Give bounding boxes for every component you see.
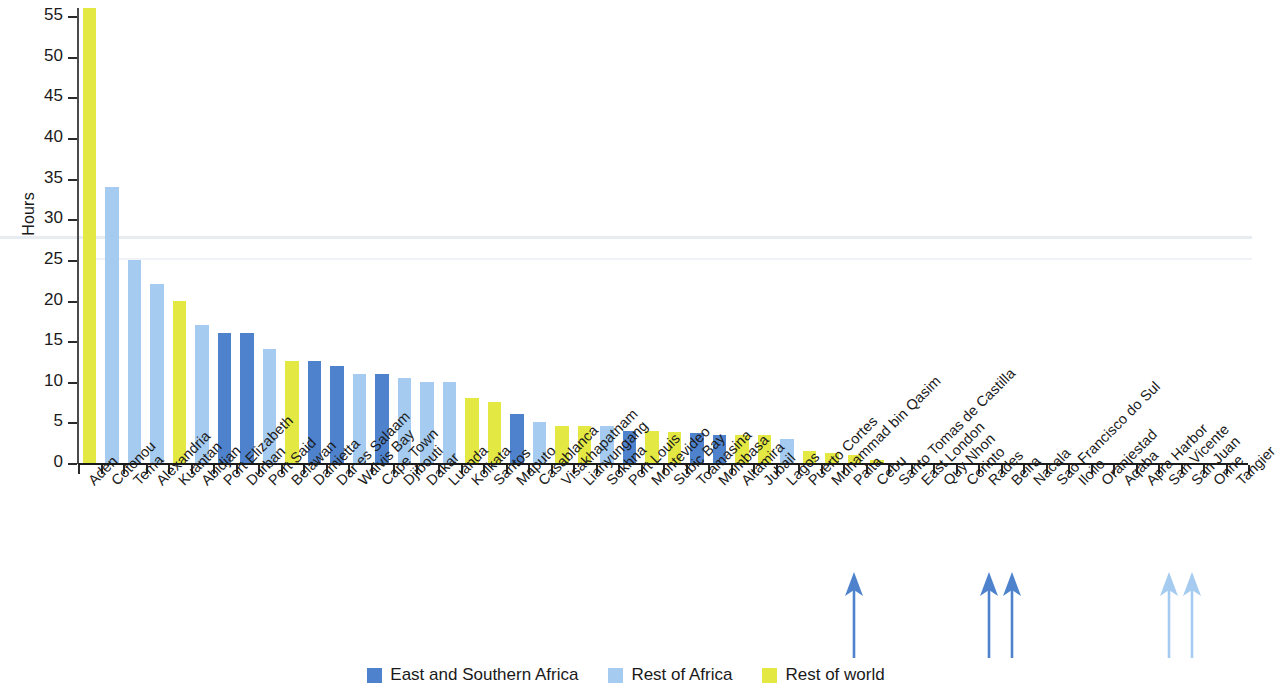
legend-item-east[interactable]: East and Southern Africa bbox=[367, 665, 578, 685]
y-tick-label: 50 bbox=[44, 46, 63, 66]
y-tick-label: 55 bbox=[44, 5, 63, 25]
legend-swatch-icon bbox=[762, 668, 777, 683]
y-tick-mark bbox=[68, 382, 77, 384]
y-tick-label: 45 bbox=[44, 86, 63, 106]
y-tick-55: 55 bbox=[0, 16, 77, 17]
y-tick-label: 20 bbox=[44, 290, 63, 310]
y-tick-mark bbox=[68, 422, 77, 424]
bar bbox=[240, 333, 254, 463]
y-tick-mark bbox=[68, 301, 77, 303]
bar bbox=[105, 187, 119, 463]
y-tick-25: 25 bbox=[0, 260, 77, 261]
y-tick-30: 30 bbox=[0, 219, 77, 220]
y-tick-40: 40 bbox=[0, 138, 77, 139]
x-axis-labels: AdenCotonouTemaAlexandriaKuantanAbidjanP… bbox=[0, 465, 1252, 595]
legend-label: East and Southern Africa bbox=[390, 665, 578, 685]
legend-label: Rest of Africa bbox=[631, 665, 732, 685]
y-tick-mark bbox=[68, 16, 77, 18]
y-tick-mark bbox=[68, 260, 77, 262]
bars-container bbox=[78, 8, 1248, 463]
bar bbox=[83, 8, 97, 463]
y-tick-50: 50 bbox=[0, 57, 77, 58]
y-tick-0: 0 bbox=[0, 463, 77, 464]
bar bbox=[128, 260, 142, 463]
y-tick-mark bbox=[68, 57, 77, 59]
chart-legend: East and Southern AfricaRest of AfricaRe… bbox=[0, 665, 1252, 685]
y-tick-label: 30 bbox=[44, 208, 63, 228]
y-tick-mark bbox=[68, 219, 77, 221]
legend-swatch-icon bbox=[367, 668, 382, 683]
bar bbox=[150, 284, 164, 463]
arrow-san-vicente-icon bbox=[1158, 570, 1180, 660]
y-tick-label: 5 bbox=[54, 411, 63, 431]
y-tick-label: 35 bbox=[44, 168, 63, 188]
y-tick-10: 10 bbox=[0, 382, 77, 383]
bar bbox=[173, 301, 187, 464]
arrow-san-juan-icon bbox=[1181, 570, 1203, 660]
y-tick-mark bbox=[68, 97, 77, 99]
y-tick-mark bbox=[68, 341, 77, 343]
legend-label: Rest of world bbox=[785, 665, 884, 685]
y-tick-label: 15 bbox=[44, 330, 63, 350]
arrow-rades-icon bbox=[978, 570, 1000, 660]
y-tick-45: 45 bbox=[0, 97, 77, 98]
legend-item-rest-africa[interactable]: Rest of Africa bbox=[608, 665, 732, 685]
y-tick-20: 20 bbox=[0, 301, 77, 302]
y-tick-15: 15 bbox=[0, 341, 77, 342]
y-tick-label: 10 bbox=[44, 371, 63, 391]
legend-swatch-icon bbox=[608, 668, 623, 683]
y-tick-label: 40 bbox=[44, 127, 63, 147]
y-tick-label: 25 bbox=[44, 249, 63, 269]
arrow-beira-icon bbox=[1001, 570, 1023, 660]
y-tick-35: 35 bbox=[0, 179, 77, 180]
legend-item-rest-world[interactable]: Rest of world bbox=[762, 665, 884, 685]
y-tick-mark bbox=[68, 138, 77, 140]
arrow-paita-icon bbox=[843, 570, 865, 660]
y-axis-ticks: 0510152025303540455055 bbox=[0, 8, 77, 464]
y-tick-5: 5 bbox=[0, 422, 77, 423]
y-tick-mark bbox=[68, 179, 77, 181]
